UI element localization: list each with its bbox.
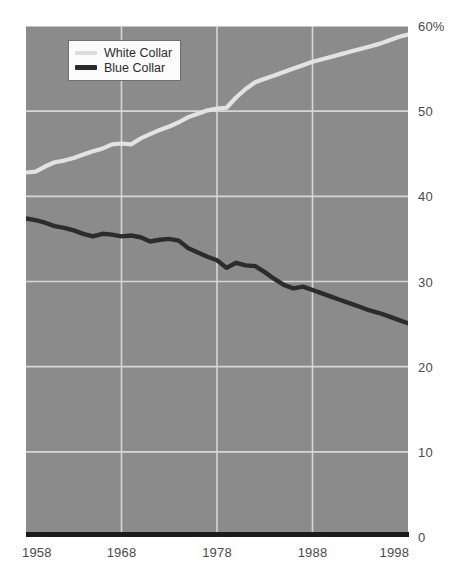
x-tick-label: 1988 <box>298 546 328 559</box>
y-tick-label: 40 <box>418 190 433 203</box>
chart-container: 60%50403020100 19581968197819881998 Whit… <box>0 0 457 579</box>
y-tick-label: 60% <box>418 20 445 33</box>
x-axis-rule <box>26 532 409 537</box>
legend-label-blue-collar: Blue Collar <box>104 61 165 75</box>
x-tick-label: 1998 <box>379 546 409 559</box>
y-tick-label: 50 <box>418 105 433 118</box>
y-tick-label: 20 <box>418 361 433 374</box>
x-tick-label: 1958 <box>22 546 52 559</box>
y-tick-label: 0 <box>418 531 425 544</box>
legend-swatch-white-collar <box>75 51 97 55</box>
legend-label-white-collar: White Collar <box>104 46 172 60</box>
legend-item-blue-collar: Blue Collar <box>75 60 172 75</box>
legend-swatch-blue-collar <box>75 65 97 70</box>
plot-area <box>26 26 408 537</box>
x-tick-label: 1978 <box>202 546 232 559</box>
chart-legend: White Collar Blue Collar <box>68 40 181 81</box>
y-tick-label: 30 <box>418 276 433 289</box>
plot-svg <box>26 26 408 537</box>
x-tick-label: 1968 <box>107 546 137 559</box>
y-tick-label: 10 <box>418 446 433 459</box>
legend-item-white-collar: White Collar <box>75 45 172 60</box>
